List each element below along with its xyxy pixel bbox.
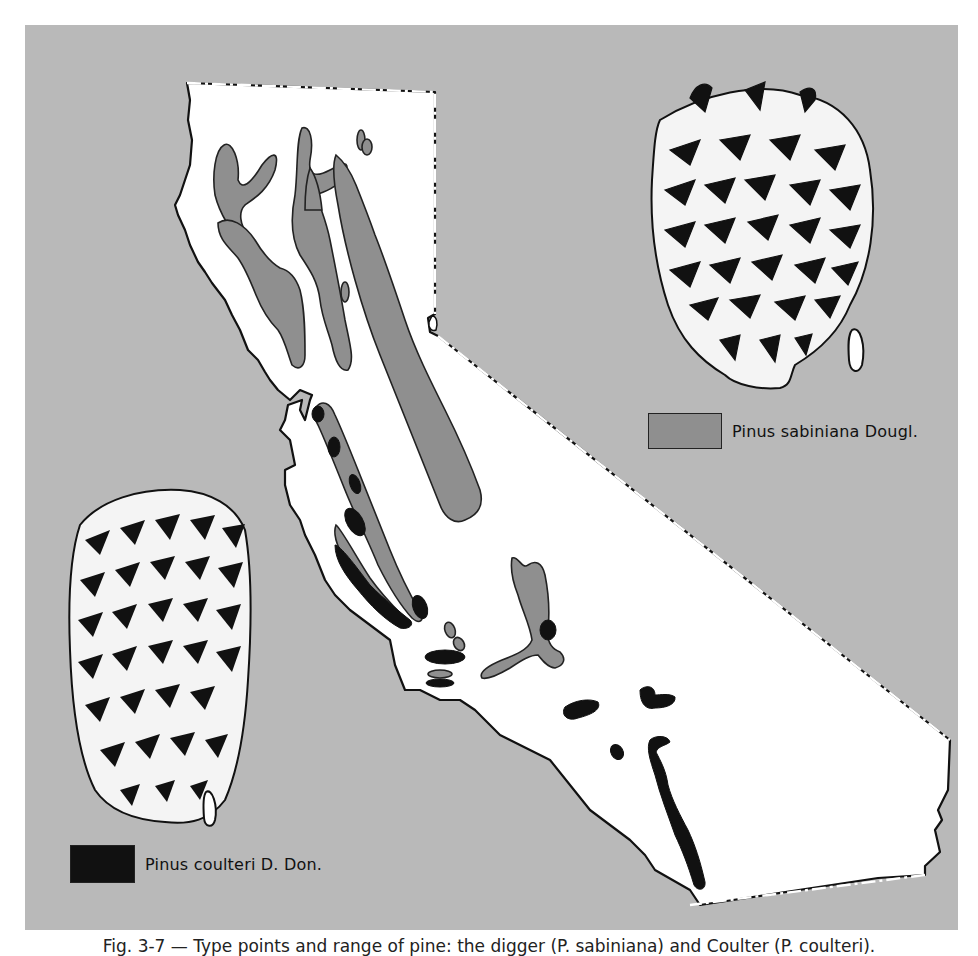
coulteri-seed — [203, 791, 215, 825]
legend-label-coulteri: Pinus coulteri D. Don. — [145, 855, 322, 874]
legend-label-sabiniana: Pinus sabiniana Dougl. — [732, 422, 918, 441]
sabiniana-seed — [848, 329, 863, 371]
legend-coulteri: Pinus coulteri D. Don. — [70, 845, 322, 883]
sabiniana-cone-illustration — [652, 82, 873, 388]
legend-sabiniana: Pinus sabiniana Dougl. — [648, 413, 918, 449]
legend-swatch-coulteri — [70, 845, 135, 883]
legend-swatch-sabiniana — [648, 413, 722, 449]
coulteri-cone-illustration — [69, 490, 250, 826]
figure-caption: Fig. 3-7 — Type points and range of pine… — [0, 936, 978, 956]
